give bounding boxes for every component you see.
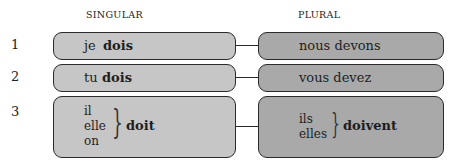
row-number-3: 3 (11, 104, 19, 119)
verb-form: dois (102, 70, 132, 85)
plural-box-1: nous devons (258, 32, 444, 60)
row-number-2: 2 (11, 69, 19, 84)
verb-form: doivent (343, 118, 397, 133)
brace-icon: } (331, 107, 340, 140)
verb-form: doit (126, 118, 155, 133)
pronoun: on (84, 134, 106, 149)
connector-line-1 (236, 45, 258, 46)
pronoun: tu (84, 70, 98, 85)
pronoun: il (84, 104, 106, 119)
plural-box-2: vous devez (258, 64, 444, 92)
verb-form: dois (103, 38, 133, 53)
pronoun: elle (84, 119, 106, 134)
singular-box-3: il elle on } doit (53, 96, 236, 158)
row-number-1: 1 (11, 37, 19, 52)
connector-line-3 (236, 126, 258, 127)
plural-box-3: ils elles } doivent (258, 96, 444, 158)
plural-form: vous devez (299, 70, 371, 85)
pronoun-stack: il elle on (84, 104, 106, 149)
pronoun: je (84, 38, 96, 53)
pronoun: elles (299, 127, 327, 142)
connector-line-2 (236, 77, 258, 78)
brace-icon: } (112, 101, 123, 141)
pronoun: ils (299, 112, 327, 127)
singular-box-2: tu dois (53, 64, 236, 92)
header-singular: SINGULAR (86, 9, 143, 20)
pronoun-stack: ils elles (299, 112, 327, 142)
plural-form: nous devons (299, 38, 381, 53)
singular-box-1: je dois (53, 32, 236, 60)
header-plural: PLURAL (298, 9, 340, 20)
